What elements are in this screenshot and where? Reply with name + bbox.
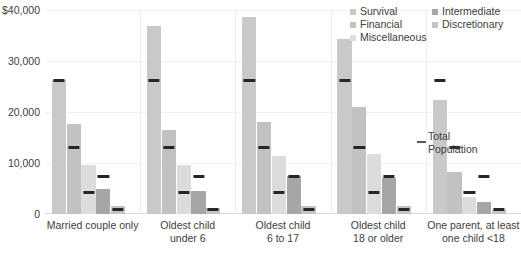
bar[interactable]: [287, 176, 301, 214]
x-axis-category-label-line: one child <18: [420, 232, 521, 245]
bar[interactable]: [337, 39, 351, 214]
bar[interactable]: [191, 191, 205, 214]
bar-group-bars: [45, 10, 140, 214]
total-population-marker: [383, 175, 394, 178]
bar-slot: [162, 10, 176, 214]
bar[interactable]: [367, 154, 381, 214]
x-axis-category-label-line: Oldest child: [134, 219, 241, 232]
x-axis-category-label: Oldest child18 or older: [325, 219, 432, 245]
x-axis-category-label: One parent, at leastone child <18: [420, 219, 521, 245]
bar-slot: [257, 10, 271, 214]
total-population-marker: [434, 79, 445, 82]
y-tick-label: 0: [34, 209, 40, 219]
bar[interactable]: [96, 189, 110, 215]
x-axis-category-label-line: under 6: [134, 232, 241, 245]
bar-slot: [52, 10, 66, 214]
grouped-bar-chart: $40,00030,00020,00010,0000 Married coupl…: [0, 0, 521, 256]
bar[interactable]: [257, 122, 271, 214]
y-axis: $40,00030,00020,00010,0000: [0, 0, 44, 256]
x-axis-category-label-line: 18 or older: [325, 232, 432, 245]
bar[interactable]: [52, 80, 66, 214]
bar[interactable]: [162, 130, 176, 214]
legend-entry[interactable]: Financial: [350, 18, 432, 31]
legend-entry[interactable]: Intermediate: [432, 5, 521, 18]
total-population-marker: [273, 191, 284, 194]
bar-slot: [81, 10, 95, 214]
total-population-marker: [259, 146, 270, 149]
bar[interactable]: [177, 165, 191, 214]
total-population-marker: [83, 191, 94, 194]
total-population-marker: [288, 175, 299, 178]
x-axis-category-label: Married couple only: [39, 219, 146, 232]
bar[interactable]: [382, 178, 396, 214]
bar[interactable]: [147, 26, 161, 214]
bar-slot: [147, 10, 161, 214]
x-axis-category-label-line: Married couple only: [39, 219, 146, 232]
legend-label: Discretionary: [442, 18, 503, 31]
total-population-annotation-line: Population: [428, 143, 478, 156]
bar-group: [235, 10, 330, 214]
bar-slot: [287, 10, 301, 214]
legend-entry[interactable]: Miscellaneous: [350, 31, 432, 44]
x-axis-category-label-line: One parent, at least: [420, 219, 521, 232]
legend-swatch-icon: [350, 35, 356, 41]
total-population-marker: [479, 175, 490, 178]
bar[interactable]: [447, 172, 461, 214]
x-axis-category-label: Oldest childunder 6: [134, 219, 241, 245]
bar[interactable]: [462, 197, 476, 214]
legend-entry[interactable]: Survival: [350, 5, 432, 18]
annotation-leader-dash: [417, 141, 426, 143]
legend-swatch-icon: [432, 22, 438, 28]
total-population-marker: [98, 175, 109, 178]
bar-slot: [67, 10, 81, 214]
total-population-marker: [464, 191, 475, 194]
total-population-marker: [178, 191, 189, 194]
bar-slot: [301, 10, 315, 214]
legend-label: Financial: [360, 18, 402, 31]
bar-slot: [177, 10, 191, 214]
y-tick-label: 10,000: [8, 158, 40, 168]
bar-slot: [272, 10, 286, 214]
legend-column: IntermediateDiscretionary: [432, 5, 521, 45]
total-population-marker: [354, 146, 365, 149]
total-population-marker: [163, 146, 174, 149]
y-tick-label: $40,000: [2, 5, 40, 15]
total-population-marker: [68, 146, 79, 149]
total-population-marker: [493, 208, 504, 211]
total-population-marker: [208, 208, 219, 211]
bar-group: [45, 10, 140, 214]
bar-group: [140, 10, 235, 214]
bar-slot: [206, 10, 220, 214]
x-axis-category-label-line: Oldest child: [325, 219, 432, 232]
x-axis-labels: Married couple onlyOldest childunder 6Ol…: [45, 219, 521, 256]
legend-entry[interactable]: Discretionary: [432, 18, 521, 31]
total-population-annotation: TotalPopulation: [428, 130, 478, 156]
total-population-marker: [244, 79, 255, 82]
bar[interactable]: [433, 100, 447, 214]
bar-group-bars: [140, 10, 235, 214]
legend-label: Intermediate: [442, 5, 500, 18]
bar[interactable]: [81, 165, 95, 214]
y-tick-label: 20,000: [8, 107, 40, 117]
y-tick-label: 30,000: [8, 56, 40, 66]
x-axis-category-label-line: 6 to 17: [229, 232, 336, 245]
legend-column: SurvivalFinancialMiscellaneous: [350, 5, 432, 45]
legend-swatch-icon: [432, 9, 438, 15]
legend-label: Survival: [360, 5, 397, 18]
bar-slot: [111, 10, 125, 214]
bar[interactable]: [272, 156, 286, 214]
total-population-marker: [193, 175, 204, 178]
total-population-marker: [149, 79, 160, 82]
total-population-marker: [303, 208, 314, 211]
bar-slot: [242, 10, 256, 214]
bar[interactable]: [242, 17, 256, 214]
bar[interactable]: [67, 124, 81, 214]
total-population-marker: [398, 208, 409, 211]
chart-legend: SurvivalFinancialMiscellaneousIntermedia…: [350, 5, 521, 45]
total-population-marker: [339, 79, 350, 82]
x-axis-category-label-line: Oldest child: [229, 219, 336, 232]
x-axis-category-label: Oldest child6 to 17: [229, 219, 336, 245]
bar[interactable]: [352, 107, 366, 214]
legend-label: Miscellaneous: [360, 31, 427, 44]
bar[interactable]: [477, 202, 491, 214]
